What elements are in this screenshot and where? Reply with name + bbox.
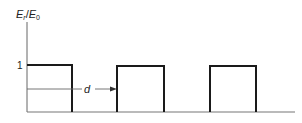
- y-tick-label-1: 1: [17, 60, 23, 71]
- pulse-3: [210, 66, 256, 112]
- dimension-label-d: d: [84, 83, 91, 95]
- pulse-1: [27, 65, 72, 112]
- y-axis-label: Er/E0: [16, 8, 40, 21]
- pulse-train-diagram: Er/E0 1 d: [0, 0, 302, 123]
- pulse-2: [117, 66, 164, 112]
- arrowhead-icon: [110, 87, 117, 92]
